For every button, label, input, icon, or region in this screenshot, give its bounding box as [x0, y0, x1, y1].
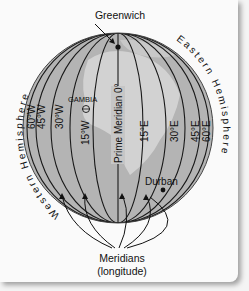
svg-text:15°W: 15°W [80, 120, 91, 145]
callout-label-line1: Meridians [99, 252, 145, 264]
svg-text:30°E: 30°E [169, 120, 180, 142]
durban-label: Durban [145, 176, 178, 187]
globe-diagram: Greenwich Prime Meridian 0° GAMBIA 60°W … [0, 0, 249, 291]
greenwich-dot [115, 44, 120, 49]
svg-text:15°E: 15°E [139, 120, 150, 142]
prime-meridian-label: Prime Meridian 0° [113, 83, 124, 163]
greenwich-label: Greenwich [95, 9, 145, 21]
svg-text:45°W: 45°W [36, 104, 47, 129]
svg-text:60°E: 60°E [201, 120, 212, 142]
durban-dot [161, 188, 166, 193]
svg-text:30°W: 30°W [54, 104, 65, 129]
svg-text:45°E: 45°E [190, 120, 201, 142]
callout-label-line2: (longitude) [97, 265, 147, 277]
gambia-label: GAMBIA [68, 95, 97, 104]
east-longitude-labels: 15°E 30°E 45°E 60°E [139, 120, 212, 142]
